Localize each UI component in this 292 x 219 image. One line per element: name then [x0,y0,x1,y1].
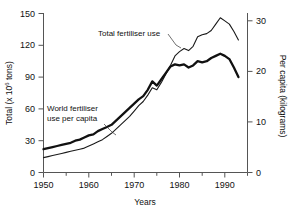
left-tick-label-90: 90 [25,72,35,82]
fertiliser-use-chart: 0 30 60 90 120 150 0 10 20 30 1950 1960 … [0,0,292,219]
right-axis-ticks: 0 10 20 30 [248,16,267,178]
world-fertiliser-per-capita-label-line2: use per capita [47,114,98,123]
right-tick-label-10: 10 [256,117,266,127]
line-total-fertiliser-use [44,18,239,158]
right-tick-label-0: 0 [256,168,261,178]
right-tick-label-30: 30 [256,16,266,26]
y2-axis-title: Per capita (kilograms) [278,55,288,138]
annotation-world-fertiliser-per-capita: World fertiliser use per capita [47,104,116,135]
x-tick-label-1990: 1990 [215,180,235,190]
left-tick-label-30: 30 [25,136,35,146]
x-axis-ticks: 1950 1960 1970 1980 1990 [33,173,247,191]
y-axis-title: Total (x 106 tons) [4,61,14,125]
right-tick-label-20: 20 [256,66,266,76]
left-tick-label-120: 120 [20,40,35,50]
y-axis-title-tail: tons) [4,61,14,82]
left-tick-label-60: 60 [25,104,35,114]
line-world-fertiliser-use-per-capita [44,54,239,149]
chart-svg: 0 30 60 90 120 150 0 10 20 30 1950 1960 … [0,0,292,219]
x-axis-title: Years [134,197,155,207]
x-tick-label-1980: 1980 [169,180,189,190]
left-tick-label-150: 150 [20,9,35,19]
x-tick-label-1950: 1950 [33,180,53,190]
left-tick-label-0: 0 [30,168,35,178]
left-axis-ticks: 0 30 60 90 120 150 [20,9,44,178]
total-fertiliser-use-label: Total fertiliser use [98,29,161,38]
y-axis-title-main: Total (x 10 [4,85,14,124]
world-fertiliser-per-capita-label-line1: World fertiliser [47,104,98,113]
x-tick-label-1960: 1960 [79,180,99,190]
series-group [44,18,239,158]
total-fertiliser-use-leader-line [168,34,181,48]
x-tick-label-1970: 1970 [124,180,144,190]
annotation-total-fertiliser-use: Total fertiliser use [98,29,181,48]
